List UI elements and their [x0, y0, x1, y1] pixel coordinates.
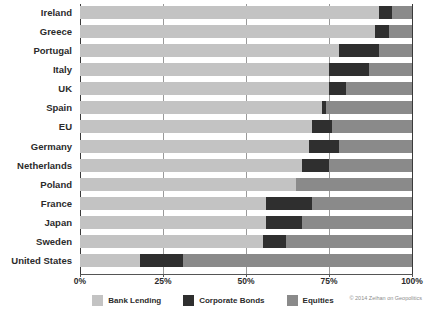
x-tick-label-100pct: 100%: [401, 276, 423, 286]
x-tick-label-0pct: 0%: [74, 276, 86, 286]
bar-row: [80, 197, 412, 210]
bar-segment-corporate-bonds: [312, 120, 332, 133]
bar-segment-equities: [346, 82, 412, 95]
bar-segment-corporate-bonds: [302, 159, 329, 172]
bar-segment-bank-lending: [80, 44, 339, 57]
plot-area: [80, 4, 412, 274]
bar-segment-equities: [312, 197, 412, 210]
bar-row: [80, 44, 412, 57]
bar-segment-bank-lending: [80, 6, 379, 19]
bar-segment-corporate-bonds: [375, 25, 388, 38]
bar-row: [80, 254, 412, 267]
bar-segment-corporate-bonds: [379, 6, 392, 19]
category-label: UK: [0, 82, 72, 95]
category-label: Germany: [0, 140, 72, 153]
bar-segment-equities: [183, 254, 412, 267]
bar-segment-equities: [326, 101, 412, 114]
bar-segment-corporate-bonds: [309, 140, 339, 153]
category-label: Portugal: [0, 44, 72, 57]
bar-row: [80, 101, 412, 114]
bar-segment-corporate-bonds: [263, 235, 286, 248]
bar-segment-corporate-bonds: [140, 254, 183, 267]
bar-row: [80, 178, 412, 191]
bar-segment-bank-lending: [80, 254, 140, 267]
legend-item[interactable]: Equities: [287, 295, 334, 306]
category-label: Poland: [0, 178, 72, 191]
bar-segment-equities: [296, 178, 412, 191]
x-tick-mark-25pct: [163, 274, 164, 277]
bar-segment-bank-lending: [80, 197, 266, 210]
x-tick-mark-50pct: [246, 274, 247, 277]
bar-segment-corporate-bonds: [339, 44, 379, 57]
category-label: Sweden: [0, 235, 72, 248]
bar-segment-bank-lending: [80, 63, 329, 76]
bar-segment-bank-lending: [80, 82, 329, 95]
bar-row: [80, 120, 412, 133]
category-label: Greece: [0, 25, 72, 38]
bar-row: [80, 63, 412, 76]
x-tick-mark-100pct: [412, 274, 413, 277]
bar-segment-equities: [379, 44, 412, 57]
bar-segment-equities: [392, 6, 412, 19]
bar-segment-bank-lending: [80, 235, 263, 248]
category-label: United States: [0, 254, 72, 267]
bar-segment-bank-lending: [80, 140, 309, 153]
bar-row: [80, 25, 412, 38]
bar-segment-equities: [389, 25, 412, 38]
bar-segment-equities: [286, 235, 412, 248]
legend-item[interactable]: Corporate Bonds: [183, 295, 264, 306]
bar-segment-equities: [332, 120, 412, 133]
bar-segment-bank-lending: [80, 216, 266, 229]
bar-segment-bank-lending: [80, 159, 302, 172]
category-label: Ireland: [0, 6, 72, 19]
bar-segment-equities: [369, 63, 412, 76]
bar-row: [80, 82, 412, 95]
bar-segment-corporate-bonds: [329, 63, 369, 76]
bars-layer: [80, 4, 412, 274]
category-axis-labels: IrelandGreecePortugalItalyUKSpainEUGerma…: [0, 4, 76, 274]
bar-row: [80, 235, 412, 248]
x-tick-label-75pct: 75%: [320, 276, 337, 286]
x-axis-tick-labels: 0%25%50%75%100%: [0, 276, 426, 290]
bar-segment-bank-lending: [80, 120, 312, 133]
bar-row: [80, 159, 412, 172]
category-label: Spain: [0, 101, 72, 114]
category-label: EU: [0, 120, 72, 133]
bar-segment-equities: [339, 140, 412, 153]
bar-row: [80, 216, 412, 229]
category-label: France: [0, 197, 72, 210]
legend-label: Equities: [303, 296, 334, 305]
category-label: Netherlands: [0, 159, 72, 172]
bar-segment-corporate-bonds: [329, 82, 346, 95]
bar-segment-equities: [302, 216, 412, 229]
bar-segment-equities: [329, 159, 412, 172]
bar-segment-corporate-bonds: [266, 197, 312, 210]
legend-swatch-icon: [287, 295, 298, 306]
bar-segment-bank-lending: [80, 25, 375, 38]
legend-label: Corporate Bonds: [199, 296, 264, 305]
bar-row: [80, 6, 412, 19]
bar-row: [80, 140, 412, 153]
x-tick-mark-0pct: [80, 274, 81, 277]
x-tick-label-25pct: 25%: [154, 276, 171, 286]
bar-segment-bank-lending: [80, 178, 296, 191]
legend-item[interactable]: Bank Lending: [92, 295, 161, 306]
gridline-100pct: [412, 4, 413, 274]
bar-segment-corporate-bonds: [266, 216, 303, 229]
x-tick-mark-75pct: [329, 274, 330, 277]
category-label: Italy: [0, 63, 72, 76]
x-tick-label-50pct: 50%: [237, 276, 254, 286]
bar-segment-bank-lending: [80, 101, 322, 114]
category-label: Japan: [0, 216, 72, 229]
legend-swatch-icon: [183, 295, 194, 306]
chart-container: IrelandGreecePortugalItalyUKSpainEUGerma…: [0, 0, 426, 314]
legend-swatch-icon: [92, 295, 103, 306]
copyright-notice: © 2014 Zeihan on Geopolitics: [349, 295, 422, 301]
legend-label: Bank Lending: [108, 296, 161, 305]
